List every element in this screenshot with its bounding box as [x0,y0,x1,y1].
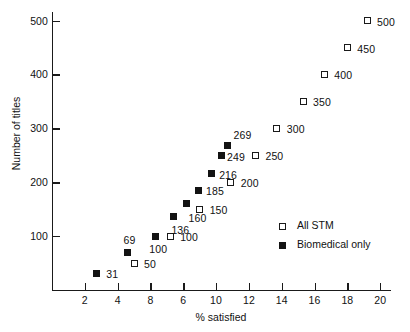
y-axis-title: Number of titles [11,69,22,199]
data-point-label: 136 [171,225,189,236]
data-point-label: 269 [234,130,252,141]
data-point-label: 500 [377,17,395,28]
data-point-marker [152,233,159,240]
data-point-marker [252,152,259,159]
data-point-marker [195,187,202,194]
y-tick-label: 500 [8,16,48,27]
data-point-label: 350 [313,97,331,108]
data-point-marker [131,260,138,267]
data-point-marker [321,71,328,78]
scatter-chart-figure: 100200300400500 2486101214161820 Number … [0,0,410,332]
data-point-label: 185 [206,186,224,197]
data-point-marker [218,152,225,159]
x-tick-label: 4 [103,295,133,306]
data-point-marker [273,125,280,132]
data-point-label: 69 [123,235,135,246]
x-tick-label: 18 [332,295,362,306]
x-tick-label: 16 [300,295,330,306]
x-tick-label: 14 [267,295,297,306]
x-tick-label: 2 [70,295,100,306]
data-point-marker [344,44,351,51]
data-point-marker [300,98,307,105]
legend-label: All STM [297,219,334,232]
legend-label: Biomedical only [297,238,371,251]
data-point-marker [183,200,190,207]
data-point-label: 31 [106,269,118,280]
data-point-label: 300 [287,124,305,135]
data-point-label: 450 [357,44,375,55]
data-point-marker [364,17,371,24]
data-point-label: 150 [210,205,228,216]
x-tick-label: 8 [135,295,165,306]
filled-square-icon [279,242,286,249]
x-tick-label: 6 [168,295,198,306]
y-tick-label: 100 [8,231,48,242]
x-tick-label: 12 [234,295,264,306]
x-tick-label: 20 [365,295,395,306]
data-point-marker [93,270,100,277]
x-tick-label: 10 [201,295,231,306]
data-point-label: 160 [189,213,207,224]
data-point-marker [170,213,177,220]
data-point-label: 200 [241,178,259,189]
data-point-label: 216 [219,170,237,181]
data-point-marker [208,170,215,177]
data-point-label: 249 [227,152,245,163]
data-point-marker [124,249,131,256]
open-square-icon [279,223,286,230]
data-point-label: 250 [265,151,283,162]
x-axis-title: % satisfied [52,312,390,323]
data-point-label: 50 [144,259,156,270]
data-point-label: 100 [149,244,167,255]
data-point-label: 400 [334,70,352,81]
data-point-marker [224,142,231,149]
